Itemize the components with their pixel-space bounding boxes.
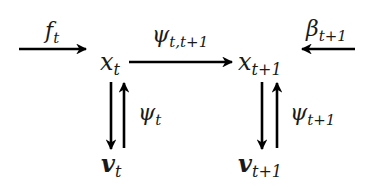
diagram-svg: ft xt ψt,t+1 xt+1 βt+1 bbox=[0, 0, 372, 187]
node-x-t: xt bbox=[100, 48, 121, 79]
node-v-t: vt bbox=[101, 149, 122, 181]
diagram-canvas: ft xt ψt,t+1 xt+1 βt+1 bbox=[0, 0, 372, 187]
edge-f-t: ft bbox=[19, 18, 86, 49]
edge-label-psi-t: ψt bbox=[138, 100, 162, 129]
edge-psi-t-t1: ψt,t+1 bbox=[129, 22, 232, 62]
edge-beta-t1: βt+1 bbox=[302, 16, 355, 49]
edge-label-psi-t1: ψt+1 bbox=[290, 100, 335, 129]
edge-label-beta-t1: βt+1 bbox=[305, 16, 347, 45]
edge-label-f-t: ft bbox=[43, 18, 60, 47]
edge-label-psi-t-t1: ψt,t+1 bbox=[152, 22, 208, 51]
edge-psi-t1: ψt+1 bbox=[277, 83, 335, 148]
node-x-t1: xt+1 bbox=[238, 48, 282, 79]
edge-psi-t: ψt bbox=[124, 83, 162, 148]
node-v-t1: vt+1 bbox=[238, 149, 282, 181]
